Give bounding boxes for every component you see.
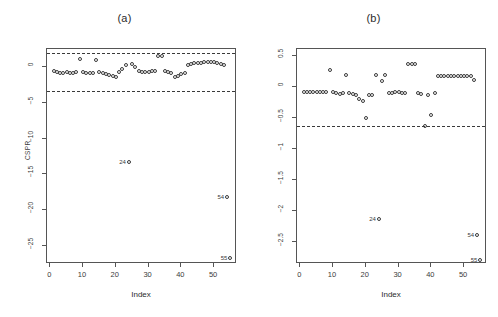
data-point — [419, 92, 423, 96]
data-point — [344, 73, 348, 77]
panel-a-x-axis-label: Index — [46, 290, 236, 299]
x-tick-label: 0 — [289, 270, 309, 279]
y-tick-mark — [292, 179, 296, 180]
y-tick-label: −25 — [27, 234, 34, 254]
x-tick-mark — [180, 263, 181, 267]
data-point — [383, 73, 387, 77]
x-tick-label: 10 — [72, 270, 92, 279]
panel-a: (a) 245455 CSPR Index 0−5−10−15−20−25010… — [0, 0, 249, 317]
panel-a-title: (a) — [0, 12, 249, 24]
x-tick-mark — [148, 263, 149, 267]
x-tick-label: 20 — [355, 270, 375, 279]
data-point — [183, 71, 187, 75]
x-tick-label: 50 — [453, 270, 473, 279]
data-point — [74, 70, 78, 74]
point-label-55: 55 — [471, 257, 481, 263]
y-tick-mark — [292, 148, 296, 149]
y-tick-label: −0.5 — [277, 106, 284, 126]
x-tick-mark — [430, 263, 431, 267]
data-point — [433, 91, 437, 95]
y-tick-label: −1.5 — [277, 168, 284, 188]
data-point — [324, 90, 328, 94]
y-tick-label: −1 — [277, 137, 284, 157]
data-point — [124, 63, 128, 67]
y-tick-mark — [292, 210, 296, 211]
data-point — [222, 63, 226, 67]
y-tick-mark — [292, 86, 296, 87]
x-tick-mark — [213, 263, 214, 267]
y-tick-mark — [292, 55, 296, 56]
data-point — [364, 116, 368, 120]
y-tick-mark — [42, 173, 46, 174]
y-tick-label: −5 — [27, 90, 34, 110]
reference-line-0 — [297, 126, 485, 127]
panel-b: (b) 245455 DFFITS Index 0.50−0.5−1−1.5−2… — [249, 0, 498, 317]
point-label-54: 54 — [467, 232, 477, 238]
data-point — [380, 79, 384, 83]
y-tick-mark — [42, 209, 46, 210]
x-tick-mark — [398, 263, 399, 267]
y-tick-label: 0 — [27, 54, 34, 74]
y-tick-label: 0 — [277, 75, 284, 95]
panel-b-x-axis-label: Index — [296, 290, 486, 299]
point-label-24: 24 — [369, 216, 379, 222]
x-tick-label: 40 — [420, 270, 440, 279]
data-point — [160, 54, 164, 58]
x-tick-label: 0 — [39, 270, 59, 279]
data-point — [472, 78, 476, 82]
x-tick-label: 30 — [138, 270, 158, 279]
x-tick-mark — [299, 263, 300, 267]
x-tick-mark — [463, 263, 464, 267]
reference-line-1 — [47, 91, 235, 92]
data-point — [370, 93, 374, 97]
y-tick-label: 0.5 — [277, 44, 284, 64]
x-tick-mark — [82, 263, 83, 267]
data-point — [133, 65, 137, 69]
data-point — [114, 75, 118, 79]
y-tick-mark — [42, 102, 46, 103]
point-label-54: 54 — [217, 194, 227, 200]
y-tick-mark — [42, 66, 46, 67]
data-point — [94, 58, 98, 62]
x-tick-label: 50 — [203, 270, 223, 279]
y-tick-label: −20 — [27, 198, 34, 218]
panel-a-plot-area: 245455 — [46, 48, 236, 263]
x-tick-label: 40 — [170, 270, 190, 279]
data-point — [429, 113, 433, 117]
data-point — [341, 91, 345, 95]
data-point — [328, 68, 332, 72]
y-tick-mark — [292, 117, 296, 118]
point-label-55: 55 — [221, 255, 231, 261]
data-point — [91, 71, 95, 75]
data-point — [374, 73, 378, 77]
x-tick-label: 20 — [105, 270, 125, 279]
data-point — [423, 124, 427, 128]
panel-b-plot-area: 245455 — [296, 48, 486, 263]
y-tick-label: −10 — [27, 126, 34, 146]
panel-b-title: (b) — [249, 12, 498, 24]
y-tick-label: −15 — [27, 162, 34, 182]
data-point — [153, 69, 157, 73]
data-point — [361, 99, 365, 103]
x-tick-mark — [115, 263, 116, 267]
y-tick-mark — [292, 241, 296, 242]
x-tick-mark — [365, 263, 366, 267]
y-tick-label: −2 — [277, 199, 284, 219]
x-tick-mark — [49, 263, 50, 267]
y-tick-mark — [42, 138, 46, 139]
data-point — [78, 57, 82, 61]
point-label-24: 24 — [119, 159, 129, 165]
data-point — [413, 62, 417, 66]
data-point — [403, 91, 407, 95]
x-tick-mark — [332, 263, 333, 267]
data-point — [120, 67, 124, 71]
y-tick-label: −2.5 — [277, 230, 284, 250]
diagnostic-figure: (a) 245455 CSPR Index 0−5−10−15−20−25010… — [0, 0, 498, 317]
x-tick-label: 10 — [322, 270, 342, 279]
reference-line-0 — [47, 53, 235, 54]
y-tick-mark — [42, 245, 46, 246]
data-point — [426, 93, 430, 97]
x-tick-label: 30 — [388, 270, 408, 279]
